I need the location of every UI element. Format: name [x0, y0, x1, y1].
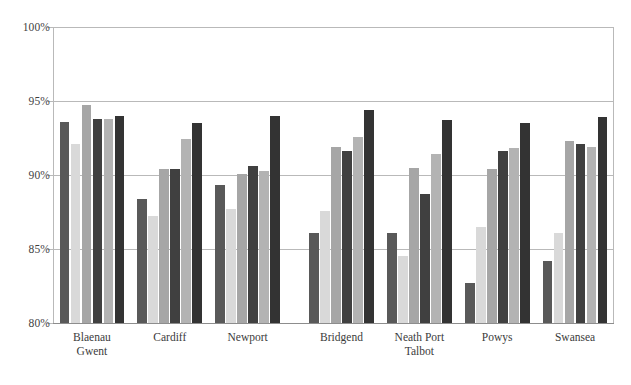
bar — [598, 117, 608, 323]
plot-area — [53, 27, 614, 323]
bar-chart: 80%85%90%95%100% Blaenau GwentCardiffNew… — [0, 0, 631, 385]
bar — [331, 147, 341, 323]
bar — [487, 169, 497, 323]
bar — [398, 256, 408, 323]
bar — [431, 154, 441, 323]
bar — [192, 123, 202, 323]
bar — [226, 209, 236, 323]
y-tick-label: 100% — [6, 21, 50, 33]
bar — [364, 110, 374, 323]
bars-layer — [53, 27, 614, 323]
bar — [576, 144, 586, 323]
bar — [409, 168, 419, 323]
bar — [587, 147, 597, 323]
category-label: Swansea — [555, 330, 595, 344]
bar — [82, 105, 92, 323]
x-axis-line — [53, 323, 614, 324]
bar — [148, 216, 158, 323]
category-label: Bridgend — [320, 330, 363, 344]
bar — [498, 151, 508, 323]
bar — [115, 116, 125, 323]
bar — [509, 148, 519, 323]
bar — [543, 261, 553, 323]
bar — [270, 116, 280, 323]
category-label: Neath Port Talbot — [395, 330, 445, 358]
bar — [387, 233, 397, 323]
bar — [71, 144, 81, 323]
bar — [320, 211, 330, 323]
bar — [353, 137, 363, 323]
y-tick-label: 85% — [6, 243, 50, 255]
category-label: Blaenau Gwent — [73, 330, 111, 358]
bar — [442, 120, 452, 323]
y-tick-label: 90% — [6, 169, 50, 181]
bar — [465, 283, 475, 323]
bar — [159, 169, 169, 323]
bar — [259, 171, 269, 323]
bar — [476, 227, 486, 323]
bar — [181, 139, 191, 323]
bar — [60, 122, 70, 323]
y-tick-label: 80% — [6, 317, 50, 329]
bar — [248, 166, 258, 323]
bar — [420, 194, 430, 323]
bar — [342, 151, 352, 323]
bar — [215, 185, 225, 323]
bar — [93, 119, 103, 323]
bar — [104, 119, 114, 323]
category-label: Powys — [482, 330, 513, 344]
bar — [170, 169, 180, 323]
category-label: Cardiff — [153, 330, 186, 344]
bar — [137, 199, 147, 323]
bar — [565, 141, 575, 323]
category-label: Newport — [228, 330, 268, 344]
bar — [237, 174, 247, 323]
bar — [554, 233, 564, 323]
y-tick-label: 95% — [6, 95, 50, 107]
bar — [520, 123, 530, 323]
bar — [309, 233, 319, 323]
